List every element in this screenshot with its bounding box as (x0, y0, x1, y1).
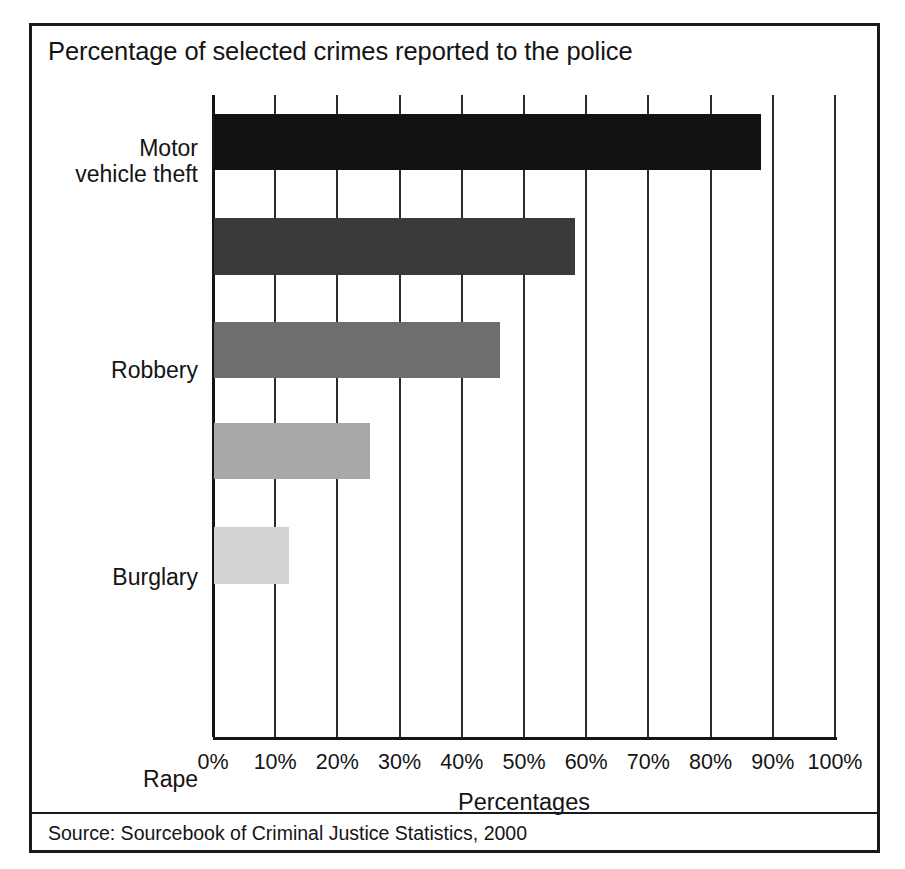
gridline-90pct (772, 95, 774, 737)
category-label-robbery: Robbery (0, 357, 198, 383)
bar-motor-vehicle-theft: Motor vehicle theft (214, 114, 761, 170)
x-tick-label-20pct: 20% (316, 750, 359, 775)
x-tick-label-100pct: 100% (808, 750, 863, 775)
gridline-60pct (585, 95, 587, 737)
source-caption: Source: Sourcebook of Criminal Justice S… (48, 822, 527, 845)
x-tick-label-10pct: 10% (254, 750, 297, 775)
bar-burglary: Burglary (214, 322, 500, 378)
gridline-100pct (834, 95, 836, 737)
bar-theft-less-than-50: Theft less than $50 (214, 527, 289, 584)
figure-frame: Percentage of selected crimes reported t… (29, 23, 880, 853)
x-tick-label-0pct: 0% (197, 750, 228, 775)
bar-rape: Rape (214, 423, 370, 479)
gridline-40pct (461, 95, 463, 737)
x-tick-label-80pct: 80% (689, 750, 732, 775)
chart-plot-area: Motor vehicle theftRobberyBurglaryRapeTh… (213, 95, 835, 737)
x-tick-label-60pct: 60% (565, 750, 608, 775)
gridline-0pct (212, 95, 215, 737)
bar-robbery: Robbery (214, 218, 575, 275)
x-tick-label-40pct: 40% (440, 750, 483, 775)
x-tick-label-50pct: 50% (502, 750, 545, 775)
gridline-10pct (274, 95, 276, 737)
gridline-80pct (710, 95, 712, 737)
source-divider (32, 812, 877, 814)
x-tick-label-70pct: 70% (627, 750, 670, 775)
gridline-30pct (399, 95, 401, 737)
x-axis-line (213, 737, 837, 740)
gridline-70pct (647, 95, 649, 737)
category-label-burglary: Burglary (0, 564, 198, 590)
category-label-rape: Rape (0, 766, 198, 792)
x-tick-label-90pct: 90% (751, 750, 794, 775)
x-tick-label-30pct: 30% (378, 750, 421, 775)
page-title: Percentage of selected crimes reported t… (48, 37, 632, 66)
gridline-50pct (523, 95, 525, 737)
gridline-20pct (336, 95, 338, 737)
category-label-motor-vehicle-theft: Motor vehicle theft (0, 135, 198, 187)
